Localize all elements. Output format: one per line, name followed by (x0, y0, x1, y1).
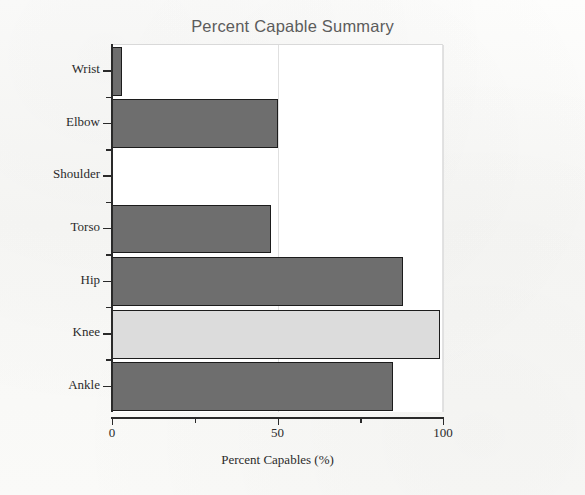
x-axis-label-100: 100 (433, 425, 453, 441)
x-axis-label-50: 50 (271, 425, 284, 441)
y-tick (103, 228, 112, 229)
bar-chart: Percent Capable Summary WristElbowShould… (0, 0, 585, 495)
y-minor-tick (106, 307, 112, 308)
y-axis-label-elbow: Elbow (66, 114, 100, 130)
y-minor-tick (106, 97, 112, 98)
bar-torso (112, 205, 271, 254)
y-tick (103, 70, 112, 71)
y-axis-label-wrist: Wrist (72, 61, 100, 77)
bar-wrist (112, 47, 122, 96)
x-minor-tick (360, 417, 361, 423)
x-axis-title: Percent Capables (%) (112, 452, 443, 468)
bar-knee (112, 310, 440, 359)
x-minor-tick (195, 417, 196, 423)
y-minor-tick (106, 359, 112, 360)
y-minor-tick (106, 254, 112, 255)
x-tick (278, 417, 279, 425)
chart-title: Percent Capable Summary (0, 17, 585, 36)
gridline (443, 45, 444, 412)
bar-elbow (112, 99, 278, 148)
y-tick (103, 123, 112, 124)
y-tick (103, 281, 112, 282)
y-minor-tick (106, 149, 112, 150)
bars-layer (112, 45, 442, 412)
bar-hip (112, 257, 403, 306)
y-axis-label-ankle: Ankle (68, 377, 100, 393)
x-axis-label-0: 0 (109, 425, 116, 441)
y-tick (103, 175, 112, 176)
y-axis-label-knee: Knee (73, 324, 100, 340)
bar-ankle (112, 362, 393, 411)
y-tick (103, 386, 112, 387)
y-tick (103, 333, 112, 334)
x-tick (112, 417, 113, 425)
x-tick (443, 417, 444, 425)
y-axis-label-shoulder: Shoulder (53, 166, 100, 182)
plot-area (112, 44, 443, 412)
y-minor-tick (106, 202, 112, 203)
y-axis-label-hip: Hip (81, 272, 101, 288)
y-axis-label-torso: Torso (71, 219, 100, 235)
